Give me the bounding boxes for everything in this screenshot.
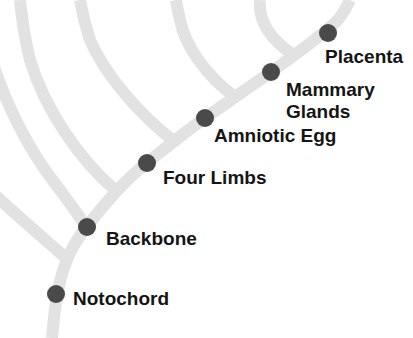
branch-1 <box>0 190 66 258</box>
branch-0 <box>0 20 88 228</box>
branch-4 <box>176 0 235 97</box>
node-placenta <box>319 24 337 42</box>
node-backbone <box>78 218 96 236</box>
branch-5 <box>260 0 294 55</box>
branch-3 <box>80 0 175 142</box>
node-notochord <box>47 285 65 303</box>
label-four-limbs: Four Limbs <box>163 167 266 188</box>
node-mammary-glands <box>262 63 280 81</box>
label-amniotic-egg: Amniotic Egg <box>214 125 336 146</box>
label-backbone: Backbone <box>106 228 197 249</box>
label-placenta: Placenta <box>325 46 403 67</box>
label-notochord: Notochord <box>73 288 169 309</box>
node-four-limbs <box>138 154 156 172</box>
cladogram-diagram: Placenta Mammary Glands Amniotic Egg Fou… <box>0 0 413 338</box>
node-amniotic-egg <box>196 109 214 127</box>
label-mammary-glands-line1: Mammary <box>286 79 375 100</box>
label-mammary-glands-line2: Glands <box>286 101 350 122</box>
